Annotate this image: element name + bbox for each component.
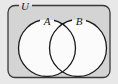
- set-a-label: A: [43, 15, 51, 27]
- venn-diagram-figure: U A B: [0, 0, 118, 84]
- venn-diagram-canvas: U A B: [0, 0, 118, 84]
- set-b-label: B: [76, 15, 83, 27]
- universal-set-label: U: [21, 0, 30, 12]
